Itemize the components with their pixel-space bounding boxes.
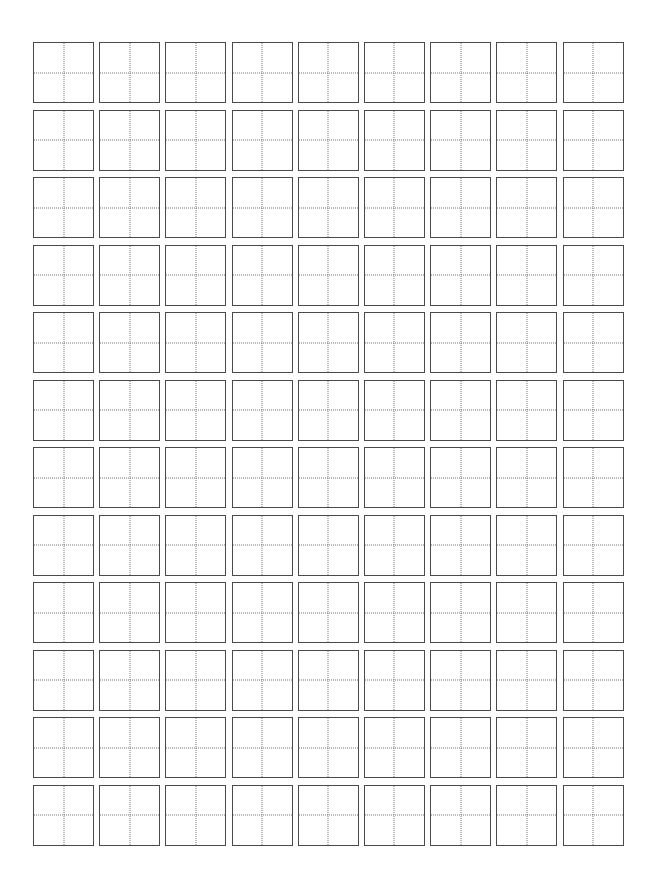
practice-cell[interactable]: [430, 312, 491, 373]
practice-cell[interactable]: [430, 177, 491, 238]
practice-cell[interactable]: [364, 42, 425, 103]
practice-cell[interactable]: [232, 447, 293, 508]
practice-cell[interactable]: [496, 312, 557, 373]
practice-cell[interactable]: [33, 447, 94, 508]
practice-cell[interactable]: [563, 515, 624, 576]
practice-cell[interactable]: [563, 312, 624, 373]
practice-cell[interactable]: [99, 312, 160, 373]
practice-cell[interactable]: [430, 110, 491, 171]
practice-cell[interactable]: [33, 650, 94, 711]
practice-cell[interactable]: [165, 582, 226, 643]
practice-cell[interactable]: [496, 245, 557, 306]
practice-cell[interactable]: [33, 515, 94, 576]
practice-cell[interactable]: [232, 245, 293, 306]
practice-cell[interactable]: [33, 245, 94, 306]
practice-cell[interactable]: [165, 717, 226, 778]
practice-cell[interactable]: [232, 312, 293, 373]
practice-cell[interactable]: [165, 785, 226, 846]
practice-cell[interactable]: [33, 42, 94, 103]
practice-cell[interactable]: [364, 650, 425, 711]
practice-cell[interactable]: [298, 177, 359, 238]
practice-cell[interactable]: [298, 447, 359, 508]
practice-cell[interactable]: [165, 110, 226, 171]
practice-cell[interactable]: [496, 717, 557, 778]
practice-cell[interactable]: [430, 447, 491, 508]
practice-cell[interactable]: [99, 650, 160, 711]
practice-cell[interactable]: [364, 717, 425, 778]
practice-cell[interactable]: [364, 245, 425, 306]
practice-cell[interactable]: [430, 582, 491, 643]
practice-cell[interactable]: [364, 312, 425, 373]
practice-cell[interactable]: [33, 785, 94, 846]
practice-cell[interactable]: [364, 177, 425, 238]
practice-cell[interactable]: [496, 380, 557, 441]
practice-cell[interactable]: [430, 42, 491, 103]
practice-cell[interactable]: [430, 515, 491, 576]
practice-cell[interactable]: [563, 110, 624, 171]
practice-cell[interactable]: [364, 582, 425, 643]
practice-cell[interactable]: [364, 110, 425, 171]
practice-cell[interactable]: [165, 312, 226, 373]
practice-cell[interactable]: [298, 785, 359, 846]
practice-cell[interactable]: [232, 177, 293, 238]
practice-cell[interactable]: [298, 380, 359, 441]
practice-cell[interactable]: [165, 177, 226, 238]
practice-cell[interactable]: [563, 42, 624, 103]
practice-cell[interactable]: [99, 380, 160, 441]
practice-cell[interactable]: [496, 177, 557, 238]
practice-cell[interactable]: [232, 42, 293, 103]
practice-cell[interactable]: [165, 245, 226, 306]
practice-cell[interactable]: [298, 582, 359, 643]
practice-cell[interactable]: [232, 380, 293, 441]
practice-cell[interactable]: [298, 312, 359, 373]
practice-cell[interactable]: [99, 582, 160, 643]
practice-cell[interactable]: [364, 515, 425, 576]
practice-cell[interactable]: [298, 717, 359, 778]
practice-cell[interactable]: [165, 650, 226, 711]
practice-cell[interactable]: [232, 515, 293, 576]
practice-cell[interactable]: [33, 380, 94, 441]
practice-cell[interactable]: [563, 447, 624, 508]
practice-cell[interactable]: [99, 110, 160, 171]
practice-cell[interactable]: [430, 785, 491, 846]
practice-cell[interactable]: [430, 245, 491, 306]
practice-cell[interactable]: [430, 717, 491, 778]
practice-cell[interactable]: [364, 380, 425, 441]
practice-cell[interactable]: [99, 42, 160, 103]
practice-cell[interactable]: [165, 42, 226, 103]
practice-cell[interactable]: [496, 447, 557, 508]
practice-cell[interactable]: [33, 717, 94, 778]
practice-cell[interactable]: [232, 785, 293, 846]
practice-cell[interactable]: [232, 650, 293, 711]
practice-cell[interactable]: [33, 110, 94, 171]
practice-cell[interactable]: [33, 177, 94, 238]
practice-cell[interactable]: [165, 515, 226, 576]
practice-cell[interactable]: [563, 582, 624, 643]
practice-cell[interactable]: [99, 717, 160, 778]
practice-cell[interactable]: [496, 582, 557, 643]
practice-cell[interactable]: [563, 245, 624, 306]
practice-cell[interactable]: [165, 447, 226, 508]
practice-cell[interactable]: [298, 515, 359, 576]
practice-cell[interactable]: [33, 582, 94, 643]
practice-cell[interactable]: [430, 380, 491, 441]
practice-cell[interactable]: [33, 312, 94, 373]
practice-cell[interactable]: [232, 110, 293, 171]
practice-cell[interactable]: [364, 785, 425, 846]
practice-cell[interactable]: [563, 785, 624, 846]
practice-cell[interactable]: [496, 650, 557, 711]
practice-cell[interactable]: [232, 582, 293, 643]
practice-cell[interactable]: [298, 650, 359, 711]
practice-cell[interactable]: [232, 717, 293, 778]
practice-cell[interactable]: [99, 515, 160, 576]
practice-cell[interactable]: [298, 245, 359, 306]
practice-cell[interactable]: [563, 380, 624, 441]
practice-cell[interactable]: [563, 650, 624, 711]
practice-cell[interactable]: [563, 177, 624, 238]
practice-cell[interactable]: [99, 177, 160, 238]
practice-cell[interactable]: [563, 717, 624, 778]
practice-cell[interactable]: [99, 447, 160, 508]
practice-cell[interactable]: [496, 42, 557, 103]
practice-cell[interactable]: [298, 42, 359, 103]
practice-cell[interactable]: [496, 110, 557, 171]
